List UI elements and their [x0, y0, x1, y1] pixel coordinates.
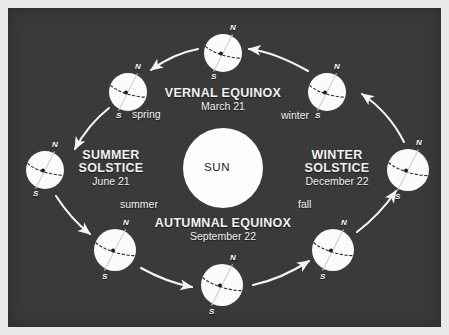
- earth-summer-solstice-north-pole-label: N: [52, 140, 58, 149]
- event-winter-solstice: WINTER SOLSTICE December 22: [280, 149, 394, 187]
- earth-summer-south-pole-label: S: [102, 272, 107, 281]
- earth-autumnal-equinox-south-pole-label: S: [209, 307, 214, 316]
- event-winter-solstice-date: December 22: [280, 175, 394, 187]
- event-winter-solstice-name-line2: SOLSTICE: [280, 162, 394, 175]
- earth-spring: [109, 73, 147, 111]
- event-vernal-equinox-date: March 21: [143, 100, 303, 112]
- orbit-arrow-winter-to-vernal: [249, 49, 308, 71]
- orbit-arrow-vernal-to-spring: [151, 49, 198, 70]
- orbit-arrow-winter-solstice-to-winter: [362, 94, 404, 142]
- earth-summer: [94, 229, 136, 271]
- event-autumnal-equinox: AUTUMNAL EQUINOX September 22: [138, 217, 308, 242]
- sun-label: SUN: [204, 161, 230, 173]
- earth-autumnal-equinox: [201, 264, 243, 306]
- earth-fall-south-pole-label: S: [320, 272, 325, 281]
- diagram-panel: SUN VERNAL EQUINOX March 21 SUMMER SOLST…: [8, 8, 441, 327]
- earth-winter-south-pole-label: S: [315, 111, 320, 120]
- earth-fall-north-pole-label: N: [341, 218, 347, 227]
- earth-fall: [312, 229, 354, 271]
- orbit-arrow-fall-to-winter-solstice: [357, 191, 396, 232]
- orbit-arrow-spring-to-summer-solstice: [75, 108, 109, 149]
- event-summer-solstice: SUMMER SOLSTICE June 21: [56, 149, 166, 187]
- season-label-winter: winter: [281, 109, 309, 121]
- season-label-summer: summer: [120, 198, 158, 210]
- event-autumnal-equinox-name: AUTUMNAL EQUINOX: [138, 217, 308, 230]
- earth-vernal-equinox-south-pole-label: S: [211, 72, 216, 81]
- orbit-arrow-autumnal-to-fall: [253, 261, 309, 285]
- earth-vernal-equinox-north-pole-label: N: [230, 23, 236, 32]
- earth-vernal-equinox: [204, 34, 242, 72]
- earth-summer-solstice-south-pole-label: S: [33, 189, 38, 198]
- orbit-arrow-summer-solstice-to-summer: [56, 196, 90, 234]
- earth-winter-solstice-north-pole-label: N: [416, 138, 422, 147]
- earth-winter-solstice-south-pole-label: S: [395, 192, 400, 201]
- event-summer-solstice-date: June 21: [56, 175, 166, 187]
- earth-winter-north-pole-label: N: [334, 62, 340, 71]
- event-vernal-equinox: VERNAL EQUINOX March 21: [143, 87, 303, 112]
- event-autumnal-equinox-date: September 22: [138, 230, 308, 242]
- earth-autumnal-equinox-north-pole-label: N: [230, 253, 236, 262]
- earth-summer-north-pole-label: N: [123, 218, 129, 227]
- event-vernal-equinox-name: VERNAL EQUINOX: [143, 87, 303, 100]
- figure-canvas: SUN VERNAL EQUINOX March 21 SUMMER SOLST…: [0, 0, 449, 335]
- season-label-fall: fall: [298, 198, 311, 210]
- earth-winter: [308, 73, 346, 111]
- earth-spring-north-pole-label: N: [135, 62, 141, 71]
- earth-spring-south-pole-label: S: [116, 111, 121, 120]
- event-summer-solstice-name-line2: SOLSTICE: [56, 162, 166, 175]
- orbit-arrow-summer-to-autumnal: [141, 268, 192, 287]
- season-label-spring: spring: [132, 108, 161, 120]
